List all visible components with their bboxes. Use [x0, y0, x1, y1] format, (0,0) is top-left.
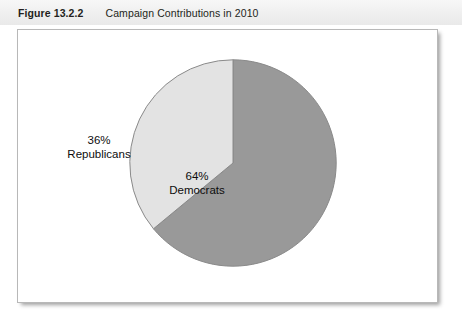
figure-caption: Campaign Contributions in 2010 — [106, 7, 259, 19]
pie-label-democrats-name: Democrats — [142, 183, 252, 197]
chart-frame: 36% Republicans 64% Democrats — [17, 29, 438, 303]
pie-label-republicans-percent: 36% — [44, 133, 154, 147]
pie-label-democrats: 64% Democrats — [142, 169, 252, 197]
pie-chart — [129, 59, 337, 267]
pie-chart-svg — [129, 59, 337, 267]
pie-label-republicans: 36% Republicans — [44, 133, 154, 161]
pie-label-democrats-percent: 64% — [142, 169, 252, 183]
figure-header: Figure 13.2.2 Campaign Contributions in … — [0, 0, 462, 25]
pie-label-republicans-name: Republicans — [44, 147, 154, 161]
figure-number-label: Figure 13.2.2 — [18, 7, 84, 19]
